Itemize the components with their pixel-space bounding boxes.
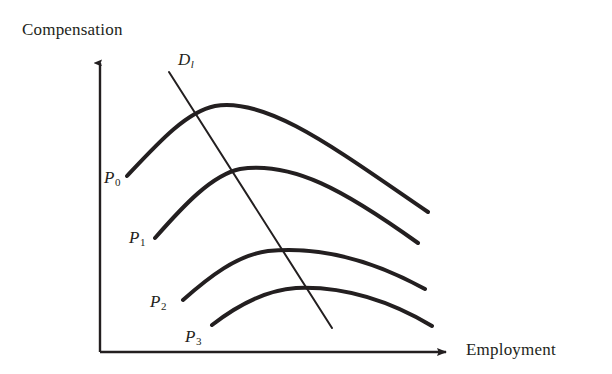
- demand-curve-label-base: D: [178, 50, 190, 69]
- x-axis-label: Employment: [466, 340, 556, 360]
- curve-label-p0-subscript: 0: [115, 176, 121, 188]
- y-axis-label: Compensation: [22, 20, 123, 40]
- curve-label-p0-base: P: [104, 168, 114, 187]
- curve-label-p3-subscript: 3: [196, 335, 202, 347]
- curve-label-p1-subscript: 1: [140, 236, 146, 248]
- isoprofit-curve-p3: [212, 288, 432, 326]
- curve-label-p3-base: P: [185, 327, 195, 346]
- isoprofit-curve-p0: [127, 105, 428, 212]
- curve-label-p0: P0: [104, 168, 120, 188]
- curve-label-p1: P1: [129, 228, 145, 248]
- curve-label-p2: P2: [150, 292, 166, 312]
- isoprofit-curves-group: [127, 105, 432, 326]
- curve-label-p2-subscript: 2: [161, 300, 167, 312]
- isoprofit-curve-p2: [183, 250, 425, 300]
- curve-label-p3: P3: [185, 327, 201, 347]
- diagram-svg: [0, 0, 612, 374]
- figure-canvas: Compensation Employment P0 P1 P2 P3 Dl: [0, 0, 612, 374]
- demand-curve-label-subscript: l: [191, 58, 194, 70]
- curve-label-p1-base: P: [129, 228, 139, 247]
- demand-curve-label: Dl: [178, 50, 193, 70]
- curve-label-p2-base: P: [150, 292, 160, 311]
